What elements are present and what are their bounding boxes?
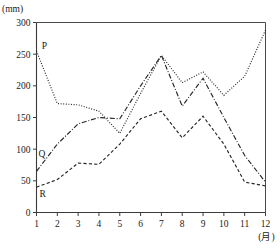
y-tick-label: 250 xyxy=(16,50,31,60)
x-tick-label: 4 xyxy=(97,219,102,229)
y-tick-label: 150 xyxy=(16,113,31,123)
y-tick-label: 100 xyxy=(16,145,31,155)
y-tick-label: 200 xyxy=(16,81,31,91)
x-tick-label: 7 xyxy=(159,219,164,229)
y-tick-label: 300 xyxy=(16,18,31,28)
y-tick-label: 50 xyxy=(21,176,31,186)
x-tick-label: 1 xyxy=(34,219,39,229)
x-tick-label: 5 xyxy=(117,219,122,229)
y-tick-label: 0 xyxy=(26,208,31,218)
series-line-p xyxy=(37,30,266,133)
series-label-p: P xyxy=(42,41,47,51)
series-line-r xyxy=(37,111,266,187)
series-label-q: Q xyxy=(39,149,46,159)
x-axis-unit-label: (月) xyxy=(258,232,274,243)
x-tick-label: 2 xyxy=(55,219,60,229)
chart-canvas: 050100150200250300(mm)123456789101112(月)… xyxy=(0,0,280,250)
series-label-r: R xyxy=(40,189,47,199)
x-tick-label: 11 xyxy=(240,219,249,229)
x-tick-label: 6 xyxy=(138,219,143,229)
x-tick-label: 8 xyxy=(180,219,185,229)
x-tick-label: 3 xyxy=(76,219,81,229)
x-tick-label: 10 xyxy=(219,219,229,229)
x-tick-label: 9 xyxy=(201,219,206,229)
y-axis-unit-label: (mm) xyxy=(2,4,23,15)
plot-frame xyxy=(37,23,266,213)
series-line-q xyxy=(37,55,266,182)
rainfall-line-chart: 050100150200250300(mm)123456789101112(月)… xyxy=(0,0,280,250)
x-tick-label: 12 xyxy=(261,219,271,229)
